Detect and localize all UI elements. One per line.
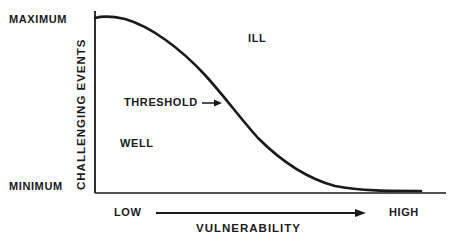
vulnerability-arrow xyxy=(156,209,366,217)
threshold-arrow xyxy=(202,100,222,107)
y-axis-max-label: MAXIMUM xyxy=(9,14,67,25)
region-label-ill: ILL xyxy=(248,33,266,44)
region-label-well: WELL xyxy=(120,138,154,149)
x-axis-title: VULNERABILITY xyxy=(196,223,301,235)
x-axis-low-label: LOW xyxy=(114,207,141,218)
y-axis-min-label: MINIMUM xyxy=(9,181,63,192)
y-axis-title: CHALLENGING EVENTS xyxy=(76,38,88,190)
threshold-diagram xyxy=(0,0,451,243)
threshold-label: THRESHOLD xyxy=(124,97,198,108)
x-axis-high-label: HIGH xyxy=(389,207,419,218)
